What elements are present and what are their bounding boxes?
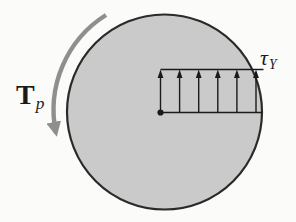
center-dot <box>157 109 163 115</box>
torque-label-symbol: T <box>16 79 35 110</box>
shear-stress-label-subscript: Y <box>269 57 277 72</box>
torque-label-subscript: p <box>36 94 45 113</box>
shear-stress-label-symbol: τ <box>260 45 268 70</box>
torque-label: Tp <box>16 81 44 112</box>
diagram-canvas <box>0 0 296 222</box>
shear-stress-label: τY <box>260 47 276 71</box>
figure: Tp τY <box>0 0 296 222</box>
